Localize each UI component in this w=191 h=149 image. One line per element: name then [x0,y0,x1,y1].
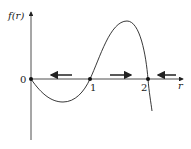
fixed-point-2 [146,77,150,81]
fixed-point-0 [29,77,33,81]
tick-label-1: 1 [90,82,96,93]
phase-line-diagram: f(r) r 0 1 2 [0,0,191,149]
tick-label-2: 2 [141,82,147,93]
y-axis-label: f(r) [7,10,24,21]
x-axis-label: r [178,80,184,91]
origin-label: 0 [20,74,26,85]
fixed-point-1 [88,77,92,81]
function-curve [31,21,152,111]
